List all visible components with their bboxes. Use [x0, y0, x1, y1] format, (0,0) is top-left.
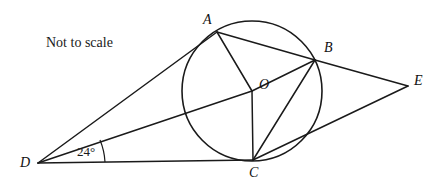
geometry-drawing: [0, 0, 436, 188]
segment-d-o: [38, 91, 252, 163]
vertex-label-e: E: [414, 74, 423, 88]
vertex-label-a: A: [203, 13, 212, 27]
segment-c-o: [252, 91, 253, 160]
angle-label-d: 24°: [77, 145, 95, 158]
vertex-label-o: O: [259, 78, 269, 92]
vertex-label-c: C: [249, 166, 258, 180]
vertex-label-d: D: [20, 156, 30, 170]
angle-arc-d: [100, 140, 105, 162]
segment-d-c: [38, 160, 253, 163]
segment-d-a: [38, 32, 217, 163]
not-to-scale-note: Not to scale: [46, 36, 113, 50]
geometry-figure: Not to scale 24° A B C D E O: [0, 0, 436, 188]
vertex-label-b: B: [324, 41, 333, 55]
segment-b-e: [315, 60, 408, 86]
